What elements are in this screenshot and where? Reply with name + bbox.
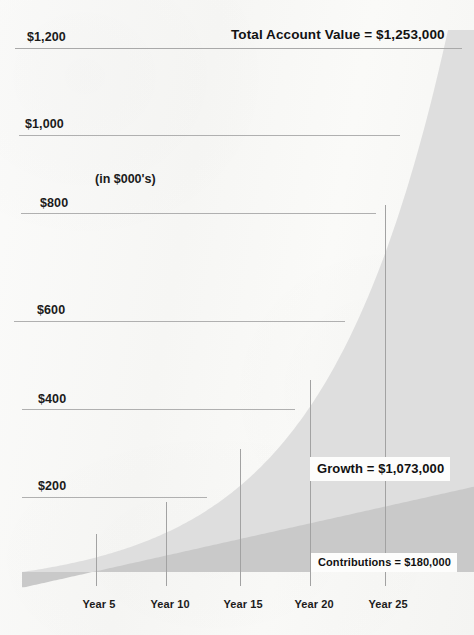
x-tick-label-year-15: Year 15: [223, 598, 262, 610]
y-tick-label-800: $800: [40, 196, 68, 210]
area-series-group: [22, 30, 474, 587]
chart-plot-area: [0, 0, 474, 635]
account-growth-chart: $1,200 $1,000 $800 $600 $400 $200 Year 5…: [0, 0, 474, 635]
units-note: (in $000's): [95, 172, 156, 186]
x-tick-label-year-25: Year 25: [368, 598, 407, 610]
contributions-callout-label: Contributions = $180,000: [311, 553, 457, 572]
chart-title: Total Account Value = $1,253,000: [231, 27, 445, 42]
x-tick-label-year-5: Year 5: [82, 598, 115, 610]
y-tick-label-1200: $1,200: [27, 30, 66, 44]
y-tick-label-600: $600: [37, 303, 65, 317]
growth-area: [22, 30, 474, 572]
x-tick-label-year-20: Year 20: [294, 598, 333, 610]
y-tick-label-200: $200: [38, 479, 66, 493]
y-tick-label-1000: $1,000: [25, 117, 64, 131]
y-tick-label-400: $400: [38, 392, 66, 406]
growth-callout-label: Growth = $1,073,000: [310, 457, 450, 481]
x-tick-label-year-10: Year 10: [150, 598, 189, 610]
